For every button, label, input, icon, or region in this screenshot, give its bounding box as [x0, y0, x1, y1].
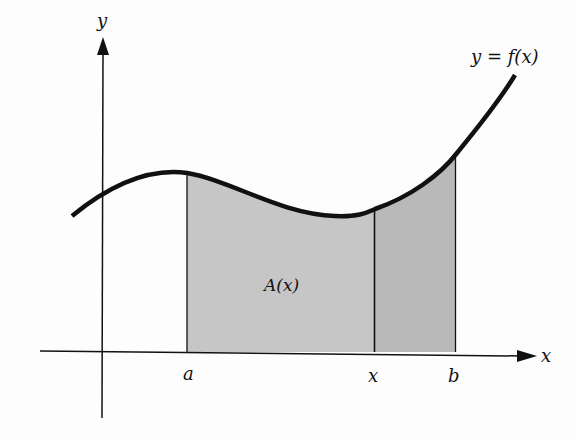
x-axis-arrow-icon	[517, 350, 537, 362]
tick-label-a: a	[183, 363, 194, 384]
area-diagram: y x y = f(x) A(x) a x b	[0, 0, 577, 439]
area-label: A(x)	[262, 275, 299, 295]
x-axis-label: x	[541, 345, 551, 366]
y-axis	[102, 52, 103, 418]
figure-canvas: y x y = f(x) A(x) a x b	[0, 0, 577, 439]
y-axis-label: y	[96, 10, 108, 31]
tick-label-b: b	[448, 365, 460, 386]
curve-label: y = f(x)	[470, 46, 539, 67]
tick-label-x: x	[368, 365, 378, 386]
y-axis-arrow-icon	[97, 37, 109, 55]
